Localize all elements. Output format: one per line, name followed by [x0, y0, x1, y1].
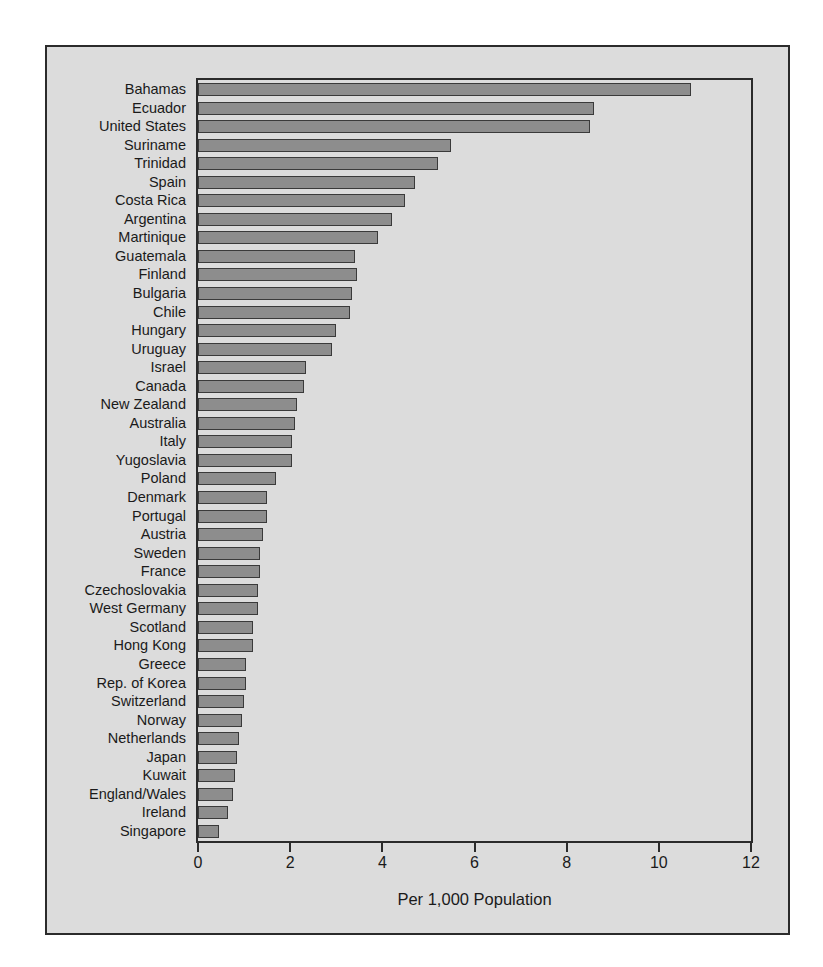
- y-axis-label: Spain: [47, 176, 192, 189]
- bar-row: [198, 83, 751, 96]
- bar-row: [198, 621, 751, 634]
- bar-row: [198, 491, 751, 504]
- y-axis-label: Bahamas: [47, 83, 192, 96]
- bar-row: [198, 639, 751, 652]
- bar-row: [198, 213, 751, 226]
- x-axis-tick-label: 6: [470, 854, 479, 872]
- bar: [198, 658, 246, 671]
- x-axis: 024681012: [196, 843, 753, 883]
- bar: [198, 83, 691, 96]
- y-axis-label: Norway: [47, 714, 192, 727]
- bar: [198, 102, 594, 115]
- bar-row: [198, 547, 751, 560]
- bar: [198, 602, 258, 615]
- bar: [198, 751, 237, 764]
- y-axis-label: Suriname: [47, 139, 192, 152]
- y-axis-label: Bulgaria: [47, 287, 192, 300]
- bar-row: [198, 380, 751, 393]
- y-axis-label: Poland: [47, 472, 192, 485]
- y-axis-label: Singapore: [47, 825, 192, 838]
- y-axis-label: England/Wales: [47, 788, 192, 801]
- y-axis-label: Czechoslovakia: [47, 584, 192, 597]
- bar: [198, 380, 304, 393]
- x-axis-title: Per 1,000 Population: [196, 890, 753, 909]
- bar-row: [198, 287, 751, 300]
- bar: [198, 139, 451, 152]
- y-axis-label: Uruguay: [47, 343, 192, 356]
- bar: [198, 324, 336, 337]
- bar: [198, 194, 405, 207]
- bar-row: [198, 250, 751, 263]
- y-axis-label: Scotland: [47, 621, 192, 634]
- x-axis-tick: [750, 843, 752, 852]
- bar-row: [198, 528, 751, 541]
- bar: [198, 788, 233, 801]
- y-axis-category-labels: BahamasEcuadorUnited StatesSurinameTrini…: [47, 80, 192, 841]
- x-axis-tick: [658, 843, 660, 852]
- bar-row: [198, 139, 751, 152]
- y-axis-label: New Zealand: [47, 398, 192, 411]
- x-axis-tick: [474, 843, 476, 852]
- bar: [198, 157, 438, 170]
- x-axis-tick-label: 8: [562, 854, 571, 872]
- bar: [198, 732, 239, 745]
- y-axis-label: Ecuador: [47, 102, 192, 115]
- bar: [198, 268, 357, 281]
- bar-row: [198, 343, 751, 356]
- bar: [198, 250, 355, 263]
- bar: [198, 343, 332, 356]
- y-axis-label: Italy: [47, 435, 192, 448]
- y-axis-label: Martinique: [47, 231, 192, 244]
- bar: [198, 806, 228, 819]
- bar-row: [198, 584, 751, 597]
- y-axis-label: Ireland: [47, 806, 192, 819]
- bar-row: [198, 788, 751, 801]
- y-axis-label: Chile: [47, 306, 192, 319]
- bar: [198, 547, 260, 560]
- bar: [198, 491, 267, 504]
- bar-row: [198, 454, 751, 467]
- x-axis-tick: [289, 843, 291, 852]
- chart-figure: BahamasEcuadorUnited StatesSurinameTrini…: [45, 45, 790, 935]
- bar-row: [198, 806, 751, 819]
- bar-row: [198, 769, 751, 782]
- bar: [198, 621, 253, 634]
- y-axis-label: Australia: [47, 417, 192, 430]
- y-axis-label: Yugoslavia: [47, 454, 192, 467]
- bar-row: [198, 157, 751, 170]
- bar: [198, 639, 253, 652]
- bar-row: [198, 306, 751, 319]
- bar-row: [198, 268, 751, 281]
- bar-row: [198, 176, 751, 189]
- x-axis-tick-label: 10: [650, 854, 668, 872]
- x-axis-tick: [197, 843, 199, 852]
- y-axis-label: West Germany: [47, 602, 192, 615]
- y-axis-label: Israel: [47, 361, 192, 374]
- y-axis-label: Rep. of Korea: [47, 677, 192, 690]
- y-axis-label: Netherlands: [47, 732, 192, 745]
- x-axis-tick-label: 0: [194, 854, 203, 872]
- y-axis-label: Denmark: [47, 491, 192, 504]
- bar-row: [198, 510, 751, 523]
- bar: [198, 677, 246, 690]
- y-axis-label: United States: [47, 120, 192, 133]
- y-axis-label: Japan: [47, 751, 192, 764]
- bar-row: [198, 120, 751, 133]
- y-axis-label: Trinidad: [47, 157, 192, 170]
- y-axis-label: Sweden: [47, 547, 192, 560]
- y-axis-label: Hong Kong: [47, 639, 192, 652]
- bar-row: [198, 825, 751, 838]
- y-axis-label: Portugal: [47, 510, 192, 523]
- bar: [198, 454, 292, 467]
- bar: [198, 231, 378, 244]
- bar: [198, 695, 244, 708]
- bar-row: [198, 565, 751, 578]
- bar: [198, 361, 306, 374]
- bar: [198, 528, 263, 541]
- bar: [198, 435, 292, 448]
- bar-row: [198, 398, 751, 411]
- bar: [198, 306, 350, 319]
- bar: [198, 565, 260, 578]
- y-axis-label: Austria: [47, 528, 192, 541]
- bar-row: [198, 602, 751, 615]
